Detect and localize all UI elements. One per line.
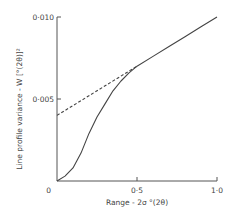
y-tick-label: 0·010	[33, 13, 55, 22]
axis-labels: 00·0050·0100·51·0Range - 2σ °(2θ)Line pr…	[15, 13, 223, 207]
y-axis-title: Line profile variance - W [°(2θ)]²	[15, 48, 24, 169]
y-tick-label: 0	[46, 186, 51, 195]
variance-range-chart: 00·0050·0100·51·0Range - 2σ °(2θ)Line pr…	[0, 0, 236, 220]
axes	[57, 17, 217, 181]
series-group	[57, 17, 217, 181]
x-tick-label: 1·0	[211, 186, 223, 195]
x-axis-title: Range - 2σ °(2θ)	[106, 198, 168, 207]
dashed-extrapolation-line	[57, 66, 137, 115]
figure-caption-cutoff	[8, 211, 232, 220]
y-tick-label: 0·005	[33, 95, 55, 104]
variance-curve	[57, 17, 217, 181]
x-tick-label: 0·5	[131, 186, 143, 195]
